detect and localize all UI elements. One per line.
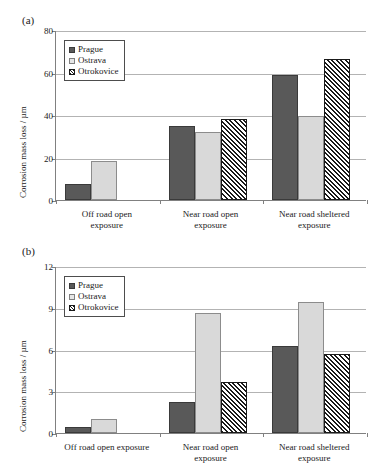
x-tick-mark [160,200,161,204]
legend-item-prague[interactable]: Prague [69,280,119,291]
legend-label: Otrokovice [78,302,119,313]
bar-otrokovice-group-2 [221,382,247,433]
legend-label: Ostrava [78,291,106,302]
x-tick-mark [56,433,57,437]
legend-swatch-ostrava-icon [69,294,75,300]
y-tick-label: 40 [44,112,53,121]
legend-item-ostrava[interactable]: Ostrava [69,55,119,66]
chart-panel-a: (a) Corrosion mass loss / µm 020406080 O… [0,0,374,237]
gridline [56,31,366,32]
x-category-line: exposure [55,220,159,231]
bar-ostrava-group-1 [91,419,117,433]
chart-panel-b: (b) Corrosion mass loss / µm 036912 Off … [0,237,374,474]
x-tick-mark [263,200,264,204]
legend-label: Prague [78,44,103,55]
bar-prague-group-1 [65,184,91,200]
legend-item-otrokovice[interactable]: Otrokovice [69,302,119,313]
x-category-label-1: Off road openexposure [55,209,159,231]
bar-otrokovice-group-2 [221,119,247,200]
x-category-label-2: Near road openexposure [159,442,263,464]
legend-swatch-prague-icon [69,47,75,53]
y-tick-label: 12 [44,263,53,272]
x-category-label-3: Near road shelteredexposure [262,442,366,464]
y-tick-label: 9 [49,304,54,313]
legend-swatch-otrokovice-icon [69,69,75,75]
x-category-line: Near road sheltered [262,442,366,453]
y-tick-label: 60 [44,69,53,78]
x-category-line: exposure [262,453,366,464]
panel-label-b: (b) [22,245,35,257]
bar-prague-group-3 [272,75,298,200]
legend-item-prague[interactable]: Prague [69,44,119,55]
x-category-line: Off road open [55,209,159,220]
bar-ostrava-group-1 [91,161,117,200]
x-tick-mark [367,200,368,204]
gridline [56,267,366,268]
x-category-label-1: Off road open exposure [55,442,159,453]
legend-swatch-ostrava-icon [69,58,75,64]
x-tick-mark [367,433,368,437]
legend-swatch-otrokovice-icon [69,305,75,311]
x-category-line: exposure [159,453,263,464]
bar-prague-group-3 [272,346,298,433]
y-tick-label: 0 [49,430,54,439]
legend-item-otrokovice[interactable]: Otrokovice [69,66,119,77]
y-axis-label-a: Corrosion mass loss / µm [18,106,28,198]
x-category-line: Near road sheltered [262,209,366,220]
x-category-line: exposure [262,220,366,231]
bar-prague-group-1 [65,427,91,433]
bar-ostrava-group-3 [298,116,324,200]
legend-item-ostrava[interactable]: Ostrava [69,291,119,302]
x-tick-mark [160,433,161,437]
legend-a: PragueOstravaOtrokovice [64,40,125,81]
x-category-line: Near road open [159,209,263,220]
y-axis-label-b: Corrosion mass loss / µm [18,340,28,432]
legend-swatch-prague-icon [69,283,75,289]
bar-otrokovice-group-3 [324,354,350,433]
y-tick-label: 0 [49,197,54,206]
bar-prague-group-2 [169,126,195,200]
x-category-line: Off road open exposure [55,442,159,453]
x-category-label-3: Near road shelteredexposure [262,209,366,231]
panel-label-a: (a) [22,14,34,26]
x-category-label-2: Near road openexposure [159,209,263,231]
y-tick-label: 20 [44,154,53,163]
legend-label: Ostrava [78,55,106,66]
x-tick-mark [263,433,264,437]
bar-ostrava-group-2 [195,313,221,433]
bar-ostrava-group-2 [195,132,221,200]
x-category-line: Near road open [159,442,263,453]
bar-prague-group-2 [169,402,195,433]
legend-label: Otrokovice [78,66,119,77]
bar-otrokovice-group-3 [324,59,350,200]
y-tick-label: 6 [49,346,54,355]
bar-ostrava-group-3 [298,302,324,433]
x-category-line: exposure [159,220,263,231]
legend-b: PragueOstravaOtrokovice [64,276,125,317]
x-tick-mark [56,200,57,204]
legend-label: Prague [78,280,103,291]
y-tick-label: 80 [44,27,53,36]
y-tick-label: 3 [49,388,54,397]
